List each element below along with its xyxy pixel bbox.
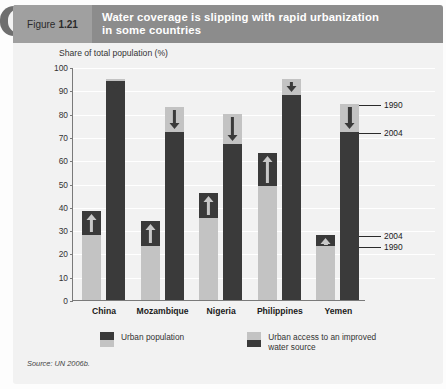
y-axis-tick-label: 100 [54,63,68,73]
bar-base-segment [82,235,101,300]
legend-item-urban-water-access: Urban access to an improvedwater source [247,332,376,352]
arrow-down-icon [110,82,121,89]
x-axis-label-nigeria: Nigeria [207,306,236,316]
arrow-up-icon [262,156,273,183]
bar-base-segment [106,81,125,300]
bar-water-access [282,79,301,300]
legend-label-urban-water-access: Urban access to an improvedwater source [268,332,376,352]
bar-water-access [165,107,184,300]
bar-urban-population [82,211,101,300]
bar-group-philippines: Philippines [249,68,308,300]
y-axis-tick-label: 0 [63,296,68,306]
arrow-up-icon [320,238,331,245]
figure-title-line1: Water coverage is slipping with rapid ur… [102,11,379,23]
y-axis-tick-label: 80 [59,110,68,120]
arrow-down-icon [169,110,180,130]
annotation-leader-line [359,236,381,237]
annotation-water-1990: 1990 [384,100,403,110]
bar-change-segment [82,211,101,234]
annotation-leader-line [359,247,381,248]
arrow-up-icon [145,224,156,244]
bar-water-access [340,104,359,300]
bar-base-segment [141,246,160,300]
bar-base-segment [258,186,277,300]
source-note: Source: UN 2006b. [27,359,90,368]
bar-change-segment [282,79,301,95]
bar-change-segment [258,153,277,186]
bar-change-segment [165,107,184,133]
chart-plot-area: 0102030405060708090100ChinaMozambiqueNig… [72,68,365,301]
figure-header: Figure 1.21 Water coverage is slipping w… [13,5,443,43]
y-axis-tick-label: 40 [59,203,68,213]
figure-title-line2: in some countries [102,24,201,36]
bar-change-segment [199,193,218,219]
annotation-leader-line [359,105,381,106]
bar-water-access [223,114,242,300]
y-axis-tick-label: 90 [59,86,68,96]
bar-urban-population [316,235,335,300]
bar-water-access [106,79,125,300]
y-axis-tick-label: 50 [59,180,68,190]
figure-number-tag: Figure 1.21 [13,5,92,43]
x-axis-label-china: China [92,306,116,316]
annotation-leader-line [359,133,381,134]
y-axis-tick-label: 10 [59,273,68,283]
bar-change-segment [106,79,125,81]
bar-base-segment [165,132,184,300]
bar-urban-population [141,221,160,300]
bar-base-segment [316,246,335,300]
bar-group-china: China [73,68,132,300]
arrow-down-icon [286,82,297,92]
bar-base-segment [340,132,359,300]
legend-item-urban-population: Urban population [100,332,184,352]
bar-change-segment [141,221,160,247]
legend-swatch-urban-population [100,332,114,347]
bar-base-segment [282,95,301,300]
y-axis-tick-label: 60 [59,156,68,166]
y-tick-mark [70,301,73,302]
arrow-down-icon [227,117,238,141]
y-axis-title: Share of total population (%) [59,48,168,58]
bar-urban-population [199,193,218,300]
arrow-up-icon [203,196,214,216]
bar-base-segment [223,144,242,300]
legend-swatch-urban-water-access [247,332,261,347]
figure-label: Figure [27,19,55,30]
chart-legend: Urban populationUrban access to an impro… [100,332,376,352]
bar-change-segment [316,235,335,247]
y-axis-tick-label: 30 [59,226,68,236]
arrow-up-icon [86,214,97,231]
bar-base-segment [199,218,218,300]
figure-number: 1.21 [58,19,77,30]
x-axis-label-yemen: Yemen [325,306,353,316]
annotation-water-2004: 2004 [384,128,403,138]
bar-change-segment [340,104,359,132]
x-axis-label-mozambique: Mozambique [137,306,189,316]
arrow-down-icon [344,107,355,129]
x-axis-label-philippines: Philippines [257,306,303,316]
bar-urban-population [258,153,277,300]
annotation-pop-1990: 1990 [384,242,403,252]
bar-group-nigeria: Nigeria [190,68,249,300]
y-axis-tick-label: 70 [59,133,68,143]
annotation-pop-2004: 2004 [384,231,403,241]
legend-label-urban-population: Urban population [121,332,184,343]
bar-change-segment [223,114,242,144]
bar-group-yemen: Yemen [307,68,366,300]
figure-screenshot: Figure 1.21 Water coverage is slipping w… [0,0,446,389]
figure-title: Water coverage is slipping with rapid ur… [92,5,443,43]
y-axis-tick-label: 20 [59,249,68,259]
bar-group-mozambique: Mozambique [132,68,191,300]
